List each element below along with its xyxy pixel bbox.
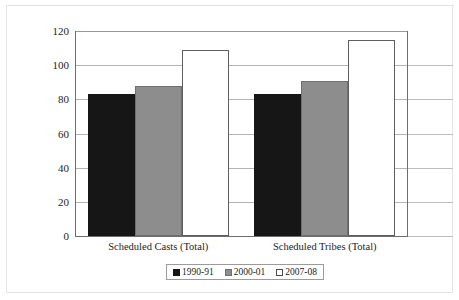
y-tick-label: 60 xyxy=(9,129,69,140)
gridline-stub xyxy=(408,65,453,66)
y-tick-label: 80 xyxy=(9,94,69,105)
plot-area xyxy=(75,31,408,236)
bar-2000-01-scheduled-casts-total- xyxy=(135,86,182,236)
bar-2007-08-scheduled-casts-total- xyxy=(182,50,229,236)
chart-legend: 1990-912000-012007-08 xyxy=(166,264,324,280)
legend-swatch-icon xyxy=(276,269,283,276)
x-axis-line xyxy=(75,236,408,237)
bar-1990-91-scheduled-casts-total- xyxy=(88,94,135,236)
legend-label: 1990-91 xyxy=(182,267,214,277)
y-tick-label: 20 xyxy=(9,197,69,208)
gridline-stub xyxy=(408,134,453,135)
legend-item-2007-08: 2007-08 xyxy=(276,267,317,277)
y-tick-label: 0 xyxy=(9,231,69,242)
gridline-stub xyxy=(408,236,453,237)
y-axis: 020406080100120 xyxy=(5,31,69,236)
gridline-stub xyxy=(408,168,453,169)
legend-swatch-icon xyxy=(225,269,232,276)
bar-chart: 020406080100120 Scheduled Casts (Total)S… xyxy=(0,0,459,300)
page-border-bottom xyxy=(6,292,453,293)
y-tick-label: 100 xyxy=(9,60,69,71)
y-tick-label: 40 xyxy=(9,163,69,174)
page-border-top xyxy=(6,5,454,6)
bars xyxy=(75,31,408,236)
legend-label: 2000-01 xyxy=(234,267,266,277)
legend-item-2000-01: 2000-01 xyxy=(225,267,266,277)
y-tick-label: 120 xyxy=(9,26,69,37)
legend-item-1990-91: 1990-91 xyxy=(173,267,214,277)
x-tick-label: Scheduled Tribes (Total) xyxy=(234,241,415,252)
bar-1990-91-scheduled-tribes-total- xyxy=(254,94,301,236)
legend-label: 2007-08 xyxy=(285,267,317,277)
page-border-right xyxy=(452,5,453,293)
legend-swatch-icon xyxy=(173,269,180,276)
x-tick-label: Scheduled Casts (Total) xyxy=(68,241,249,252)
bar-2007-08-scheduled-tribes-total- xyxy=(348,40,395,236)
gridline-stub xyxy=(408,99,453,100)
bar-2000-01-scheduled-tribes-total- xyxy=(301,81,348,236)
gridline-stub xyxy=(408,202,453,203)
